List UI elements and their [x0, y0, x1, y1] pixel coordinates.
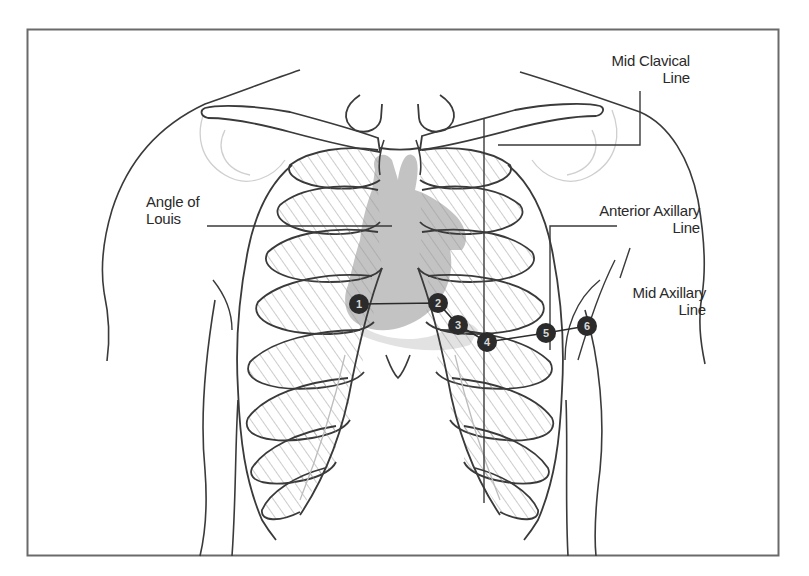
svg-text:2: 2 — [435, 297, 441, 309]
svg-text:6: 6 — [584, 320, 590, 332]
svg-text:1: 1 — [356, 298, 362, 310]
electrode-v4: 4 — [477, 332, 497, 352]
label-anterior-axillary-line: Anterior Axillary Line — [560, 202, 700, 236]
label-line-1: Anterior Axillary — [560, 202, 700, 219]
electrode-v3: 3 — [448, 315, 468, 335]
label-line-1: Mid Clavical — [560, 52, 690, 69]
label-line-1: Mid Axillary — [600, 284, 706, 301]
electrode-v2: 2 — [428, 293, 448, 313]
electrode-v5: 5 — [536, 323, 556, 343]
label-mid-clavical-line: Mid Clavical Line — [560, 52, 690, 86]
ecg-lead-placement-diagram: 1 2 3 4 5 6 Mid Clavical Line Angle of L… — [0, 0, 809, 576]
label-line-2: Line — [560, 69, 690, 86]
label-angle-of-louis: Angle of Louis — [146, 193, 236, 227]
label-line-1: Angle of — [146, 193, 236, 210]
svg-text:4: 4 — [484, 336, 491, 348]
label-line-2: Line — [600, 301, 706, 318]
label-line-2: Line — [560, 219, 700, 236]
electrode-v6: 6 — [577, 316, 597, 336]
label-mid-axillary-line: Mid Axillary Line — [600, 284, 706, 318]
svg-text:3: 3 — [455, 319, 461, 331]
label-line-2: Louis — [146, 210, 236, 227]
svg-text:5: 5 — [543, 327, 549, 339]
electrode-v1: 1 — [349, 294, 369, 314]
